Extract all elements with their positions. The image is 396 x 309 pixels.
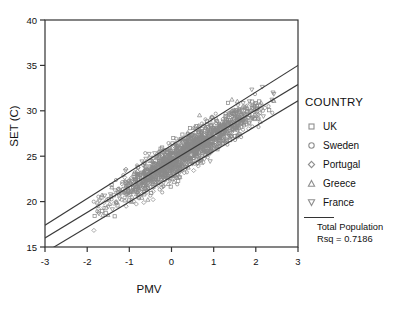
svg-text:-3: -3 bbox=[41, 256, 49, 267]
plot-frame bbox=[45, 20, 298, 247]
x-axis-tick-labels: -3 -2 -1 0 1 2 3 bbox=[41, 256, 301, 267]
legend-item-uk[interactable]: UK bbox=[303, 117, 395, 136]
triangle-up-marker-icon bbox=[303, 179, 319, 188]
y-axis-title: SET (C) bbox=[8, 76, 20, 176]
y-axis-tick-labels: 15 20 25 30 35 40 bbox=[26, 15, 37, 253]
legend-label-france: France bbox=[323, 197, 354, 208]
legend-label-uk: UK bbox=[323, 121, 337, 132]
circle-marker-icon bbox=[303, 141, 319, 150]
legend-label-greece: Greece bbox=[323, 178, 356, 189]
legend-footer-rsq: Rsq = 0.7186 bbox=[317, 234, 395, 246]
svg-text:-1: -1 bbox=[125, 256, 133, 267]
svg-text:20: 20 bbox=[26, 196, 37, 207]
svg-text:40: 40 bbox=[26, 15, 37, 26]
legend: COUNTRY UK Sweden Portugal bbox=[303, 96, 395, 245]
svg-text:3: 3 bbox=[295, 256, 300, 267]
svg-text:2: 2 bbox=[253, 256, 258, 267]
legend-item-sweden[interactable]: Sweden bbox=[303, 136, 395, 155]
chart-figure: 15 20 25 30 35 40 -3 -2 -1 0 bbox=[0, 0, 396, 309]
diamond-marker-icon bbox=[303, 160, 319, 169]
plot-area-wrapper: 15 20 25 30 35 40 -3 -2 -1 0 bbox=[0, 0, 396, 309]
legend-label-sweden: Sweden bbox=[323, 140, 359, 151]
legend-item-greece[interactable]: Greece bbox=[303, 174, 395, 193]
svg-text:0: 0 bbox=[169, 256, 174, 267]
svg-text:15: 15 bbox=[26, 242, 37, 253]
x-axis-title: PMV bbox=[0, 283, 298, 295]
svg-text:35: 35 bbox=[26, 60, 37, 71]
y-axis-ticks bbox=[40, 20, 45, 247]
legend-item-france[interactable]: France bbox=[303, 193, 395, 212]
svg-text:-2: -2 bbox=[83, 256, 91, 267]
x-axis-ticks bbox=[45, 247, 298, 252]
svg-text:25: 25 bbox=[26, 151, 37, 162]
legend-item-portugal[interactable]: Portugal bbox=[303, 155, 395, 174]
legend-line-swatch bbox=[304, 217, 334, 218]
svg-text:1: 1 bbox=[211, 256, 216, 267]
triangle-down-marker-icon bbox=[303, 198, 319, 207]
legend-title: COUNTRY bbox=[305, 96, 395, 108]
legend-label-portugal: Portugal bbox=[323, 159, 360, 170]
svg-text:30: 30 bbox=[26, 105, 37, 116]
legend-footer-total-population: Total Population bbox=[317, 222, 395, 234]
square-marker-icon bbox=[303, 122, 319, 131]
